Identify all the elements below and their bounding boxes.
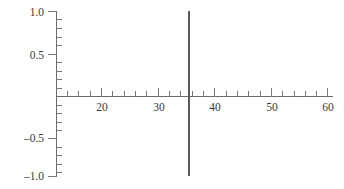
y-minor-tick <box>57 105 62 106</box>
y-major-tick-1.0 <box>48 11 57 12</box>
y-minor-tick <box>57 147 62 148</box>
x-minor-tick <box>203 91 204 97</box>
x-minor-tick <box>248 91 249 97</box>
x-major-tick-60 <box>327 88 328 97</box>
y-minor-tick <box>57 172 62 173</box>
plot-canvas: 1.0 0.5 –0.5 –1.0 20 30 40 50 60 <box>0 0 344 189</box>
x-major-tick-50 <box>271 88 272 97</box>
x-tick-label-60: 60 <box>313 102 343 114</box>
x-tick-label-30: 30 <box>144 102 174 114</box>
y-minor-tick <box>57 45 62 46</box>
y-minor-tick <box>57 155 62 156</box>
x-major-tick-40 <box>214 88 215 97</box>
x-axis-line <box>56 96 333 97</box>
x-major-tick-30 <box>158 88 159 97</box>
x-minor-tick <box>282 91 283 97</box>
y-minor-tick <box>57 164 62 165</box>
y-axis-line <box>56 11 57 177</box>
y-minor-tick <box>57 37 62 38</box>
x-minor-tick <box>169 91 170 97</box>
x-major-tick-20 <box>101 88 102 97</box>
y-minor-tick <box>57 62 62 63</box>
x-minor-tick <box>124 91 125 97</box>
x-tick-label-40: 40 <box>200 102 230 114</box>
impulse-line-x36 <box>188 11 190 176</box>
y-minor-tick <box>57 71 62 72</box>
y-tick-label--0.5: –0.5 <box>6 133 44 145</box>
x-minor-tick <box>226 91 227 97</box>
x-minor-tick <box>112 91 113 97</box>
x-tick-label-20: 20 <box>87 102 117 114</box>
x-minor-tick <box>260 91 261 97</box>
x-minor-tick <box>192 91 193 97</box>
x-minor-tick <box>90 91 91 97</box>
y-minor-tick <box>57 79 62 80</box>
y-tick-label--1.0: –1.0 <box>6 171 44 183</box>
y-minor-tick <box>57 122 62 123</box>
x-minor-tick <box>78 91 79 97</box>
x-minor-tick <box>237 91 238 97</box>
y-major-tick--0.5 <box>48 138 57 139</box>
y-minor-tick <box>57 113 62 114</box>
x-tick-label-50: 50 <box>257 102 287 114</box>
x-minor-tick <box>305 91 306 97</box>
x-minor-tick <box>146 91 147 97</box>
x-minor-tick <box>135 91 136 97</box>
y-tick-label-1.0: 1.0 <box>10 7 44 19</box>
x-minor-tick <box>294 91 295 97</box>
y-tick-label-0.5: 0.5 <box>10 50 44 62</box>
y-major-tick-0.5 <box>48 54 57 55</box>
y-minor-tick <box>57 88 62 89</box>
y-minor-tick <box>57 28 62 29</box>
y-major-tick--1.0 <box>48 176 57 177</box>
y-minor-tick <box>57 19 62 20</box>
x-minor-tick <box>316 91 317 97</box>
x-minor-tick <box>180 91 181 97</box>
x-minor-tick <box>67 91 68 97</box>
y-minor-tick <box>57 130 62 131</box>
